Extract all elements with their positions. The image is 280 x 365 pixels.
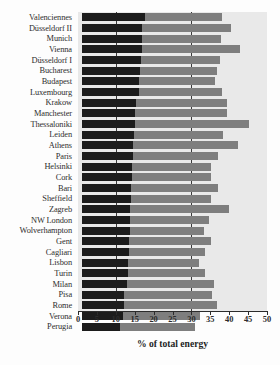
bar-track [76,195,280,203]
bar-segment-1 [82,259,128,267]
bar-segment-2 [133,152,218,160]
bar-row[interactable]: Düsseldorf II [0,23,280,34]
bar-row[interactable]: Sheffield [0,193,280,204]
bar-row[interactable]: Helsinki [0,161,280,172]
bar-segment-2 [131,184,218,192]
bar-row[interactable]: Manchester [0,108,280,119]
bar-rows-container: ValenciennesDüsseldorf IIMunichViennaDüs… [0,12,280,311]
bar-track [76,248,280,256]
bar-row-label: Munich [0,34,76,43]
bar-track [76,67,280,75]
bar-segment-1 [82,67,140,75]
bar-track [76,13,280,21]
bar-segment-1 [82,131,134,139]
bar-row[interactable]: Gent [0,236,280,247]
bar-row[interactable]: NW London [0,215,280,226]
bar-row[interactable]: Wolverhampton [0,225,280,236]
bar-row[interactable]: Krakow [0,97,280,108]
x-tick-label: 40 [225,315,233,325]
bar-row[interactable]: Pisa [0,289,280,300]
bar-row[interactable]: Rome [0,300,280,311]
bar-segment-2 [129,237,210,245]
bar-segment-2 [142,24,231,32]
bar-row[interactable]: Lisbon [0,257,280,268]
x-tick-label: 20 [149,315,157,325]
bar-row-label: Valenciennes [0,13,76,22]
bar-row[interactable]: Bari [0,183,280,194]
bar-row-label: Bari [0,184,76,193]
bar-chart: ValenciennesDüsseldorf IIMunichViennaDüs… [0,0,280,365]
bar-track [76,35,280,43]
bar-track [76,227,280,235]
bar-row[interactable]: Cagliari [0,247,280,258]
bar-row[interactable]: Valenciennes [0,12,280,23]
bar-segment-1 [82,163,132,171]
bar-row-label: Milan [0,280,76,289]
bar-segment-2 [142,35,221,43]
bar-row-label: Turin [0,269,76,278]
bar-row[interactable]: Paris [0,151,280,162]
bar-row-label: Leiden [0,130,76,139]
bar-row-label: Athens [0,141,76,150]
x-tick-label: 25 [168,315,176,325]
bar-segment-1 [82,88,139,96]
bar-row-label: Thessaloniki [0,120,76,129]
bar-segment-1 [82,205,130,213]
bar-row-label: Krakow [0,98,76,107]
bar-track [76,259,280,267]
bar-track [76,301,280,309]
bar-row[interactable]: Bucharest [0,65,280,76]
bar-segment-2 [133,141,238,149]
bar-row-label: Sheffield [0,194,76,203]
bar-row[interactable]: Milan [0,279,280,290]
bar-track [76,45,280,53]
bar-row[interactable]: Munich [0,33,280,44]
bar-segment-1 [82,24,142,32]
bar-segment-2 [132,173,212,181]
bar-segment-2 [124,291,212,299]
bar-segment-1 [82,56,141,64]
bar-row-label: Helsinki [0,162,76,171]
bar-segment-1 [82,291,124,299]
bar-segment-1 [82,99,136,107]
bar-track [76,131,280,139]
bar-row-label: Düsseldorf I [0,56,76,65]
bar-track [76,291,280,299]
bar-row-label: Paris [0,152,76,161]
bar-row-label: Bucharest [0,66,76,75]
bar-row[interactable]: Cork [0,172,280,183]
bar-segment-1 [82,120,135,128]
bar-segment-2 [129,248,205,256]
bar-row-label: Luxembourg [0,88,76,97]
bar-row[interactable]: Leiden [0,129,280,140]
bar-segment-2 [127,280,214,288]
bar-segment-1 [82,269,128,277]
x-tick-label: 35 [206,315,214,325]
bar-segment-2 [139,77,215,85]
bar-row[interactable]: Düsseldorf I [0,55,280,66]
bar-row[interactable]: Perugia [0,321,280,332]
bar-segment-2 [128,269,205,277]
bar-segment-2 [135,120,249,128]
bar-row[interactable]: Turin [0,268,280,279]
bar-row[interactable]: Athens [0,140,280,151]
bar-row-label: Cagliari [0,248,76,257]
x-tick-label: 45 [244,315,252,325]
bar-segment-1 [82,184,131,192]
bar-track [76,184,280,192]
bar-row[interactable]: Budapest [0,76,280,87]
bar-track [76,88,280,96]
bar-row[interactable]: Vienna [0,44,280,55]
x-tick-label: 15 [131,315,139,325]
bar-row-label: Düsseldorf II [0,24,76,33]
bar-row[interactable]: Zagreb [0,204,280,215]
bar-segment-2 [140,67,217,75]
bar-row[interactable]: Luxembourg [0,87,280,98]
bar-segment-2 [135,109,227,117]
bar-track [76,280,280,288]
bar-track [76,24,280,32]
x-tick-label: 5 [95,315,99,325]
bar-row[interactable]: Thessaloniki [0,119,280,130]
bar-row-label: Perugia [0,322,76,331]
bar-segment-1 [82,152,133,160]
